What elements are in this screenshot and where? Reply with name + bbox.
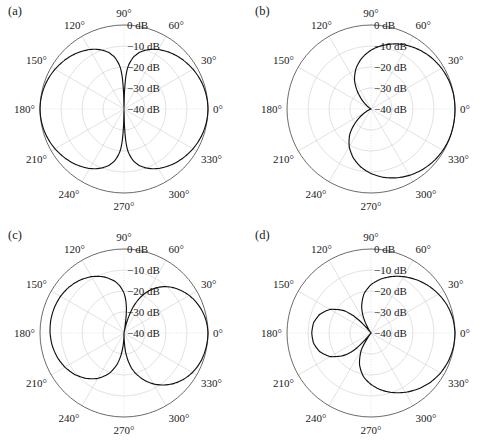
- angle-label-30: 30°: [448, 54, 463, 66]
- radial-label-40db: −40 dB: [127, 327, 160, 339]
- radial-label-40db: −40 dB: [127, 103, 160, 115]
- polar-plot-a: 0°30°60°90°120°150°180°210°240°270°300°3…: [0, 0, 246, 223]
- polar-plot-d: 0°30°60°90°120°150°180°210°240°270°300°3…: [247, 224, 493, 447]
- angle-label-60: 60°: [169, 19, 184, 31]
- angle-label-30: 30°: [448, 278, 463, 290]
- angle-label-30: 30°: [201, 54, 216, 66]
- panel-label-b: (b): [255, 4, 270, 19]
- angle-label-150: 150°: [26, 54, 47, 66]
- angle-label-60: 60°: [169, 243, 184, 255]
- angle-label-330: 330°: [448, 377, 469, 389]
- radial-label-0db: 0 dB: [374, 243, 395, 255]
- angle-label-270: 270°: [361, 424, 382, 436]
- angle-label-240: 240°: [306, 412, 327, 424]
- angle-label-180: 180°: [261, 327, 282, 339]
- radial-label-0db: 0 dB: [374, 19, 395, 31]
- radial-label-10db: −10 dB: [374, 264, 407, 276]
- panel-label-a: (a): [8, 4, 22, 19]
- radial-label-30db: −30 dB: [127, 306, 160, 318]
- angle-label-210: 210°: [273, 377, 294, 389]
- angle-label-180: 180°: [14, 103, 35, 115]
- radial-label-0db: 0 dB: [127, 19, 148, 31]
- radial-label-10db: −10 dB: [127, 264, 160, 276]
- angle-label-120: 120°: [64, 243, 85, 255]
- angle-label-150: 150°: [273, 278, 294, 290]
- angle-label-150: 150°: [26, 278, 47, 290]
- angle-label-300: 300°: [416, 412, 437, 424]
- angle-label-0: 0°: [213, 327, 223, 339]
- angle-label-180: 180°: [261, 103, 282, 115]
- angle-label-330: 330°: [201, 377, 222, 389]
- polar-plot-b: 0°30°60°90°120°150°180°210°240°270°300°3…: [247, 0, 493, 223]
- panel-d: (d)0°30°60°90°120°150°180°210°240°270°30…: [247, 224, 493, 447]
- radial-label-40db: −40 dB: [374, 103, 407, 115]
- angle-label-90: 90°: [363, 7, 378, 19]
- radial-label-30db: −30 dB: [374, 82, 407, 94]
- polar-plot-c: 0°30°60°90°120°150°180°210°240°270°300°3…: [0, 224, 246, 447]
- angle-label-120: 120°: [311, 19, 332, 31]
- panel-c: (c)0°30°60°90°120°150°180°210°240°270°30…: [0, 224, 246, 447]
- angle-label-30: 30°: [201, 278, 216, 290]
- radial-label-10db: −10 dB: [127, 40, 160, 52]
- angle-label-270: 270°: [114, 424, 135, 436]
- panel-b: (b)0°30°60°90°120°150°180°210°240°270°30…: [247, 0, 493, 223]
- angle-label-60: 60°: [416, 19, 431, 31]
- angle-label-90: 90°: [363, 231, 378, 243]
- angle-labels-c: 0°30°60°90°120°150°180°210°240°270°300°3…: [14, 231, 223, 436]
- angle-label-300: 300°: [416, 188, 437, 200]
- angle-label-120: 120°: [311, 243, 332, 255]
- angle-labels-d: 0°30°60°90°120°150°180°210°240°270°300°3…: [261, 231, 470, 436]
- angle-label-0: 0°: [460, 103, 470, 115]
- angle-label-210: 210°: [273, 153, 294, 165]
- angle-label-270: 270°: [361, 200, 382, 212]
- panel-a: (a)0°30°60°90°120°150°180°210°240°270°30…: [0, 0, 246, 223]
- radial-label-20db: −20 dB: [374, 61, 407, 73]
- angle-label-60: 60°: [416, 243, 431, 255]
- angle-label-330: 330°: [201, 153, 222, 165]
- polar-radiation-pattern-figure: (a)0°30°60°90°120°150°180°210°240°270°30…: [0, 0, 493, 447]
- radial-label-30db: −30 dB: [127, 82, 160, 94]
- angle-label-210: 210°: [26, 153, 47, 165]
- angle-label-240: 240°: [59, 188, 80, 200]
- angle-label-90: 90°: [116, 7, 131, 19]
- panel-label-d: (d): [255, 228, 270, 243]
- angle-label-180: 180°: [14, 327, 35, 339]
- radial-label-20db: −20 dB: [374, 285, 407, 297]
- angle-labels-b: 0°30°60°90°120°150°180°210°240°270°300°3…: [261, 7, 470, 212]
- angle-label-300: 300°: [169, 188, 190, 200]
- angle-label-0: 0°: [460, 327, 470, 339]
- angle-label-240: 240°: [306, 188, 327, 200]
- angle-label-210: 210°: [26, 377, 47, 389]
- angle-label-0: 0°: [213, 103, 223, 115]
- angle-labels-a: 0°30°60°90°120°150°180°210°240°270°300°3…: [14, 7, 223, 212]
- angle-label-270: 270°: [114, 200, 135, 212]
- radial-label-20db: −20 dB: [127, 61, 160, 73]
- angle-label-90: 90°: [116, 231, 131, 243]
- radial-label-40db: −40 dB: [374, 327, 407, 339]
- angle-label-300: 300°: [169, 412, 190, 424]
- angle-label-330: 330°: [448, 153, 469, 165]
- angle-label-240: 240°: [59, 412, 80, 424]
- radial-label-30db: −30 dB: [374, 306, 407, 318]
- angle-label-150: 150°: [273, 54, 294, 66]
- panel-label-c: (c): [8, 228, 22, 243]
- angle-label-120: 120°: [64, 19, 85, 31]
- radial-label-0db: 0 dB: [127, 243, 148, 255]
